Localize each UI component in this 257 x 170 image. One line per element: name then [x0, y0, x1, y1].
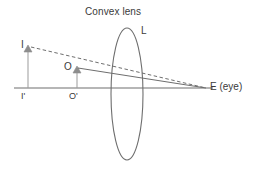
image-arrow-head: [24, 45, 32, 52]
object-point-label: O: [64, 62, 72, 72]
object-arrow-head: [73, 66, 81, 73]
virtual-ray-line: [31, 47, 206, 88]
image-foot-label: I': [21, 92, 25, 101]
eye-label: E (eye): [210, 82, 242, 92]
optics-diagram-convex-lens: Convex lens L I O I' O' E (eye): [0, 0, 257, 170]
convex-lens-outline: [111, 28, 143, 160]
image-point-label: I: [21, 40, 24, 50]
diagram-title: Convex lens: [85, 7, 141, 17]
object-foot-label: O': [69, 92, 78, 101]
lens-label: L: [141, 26, 147, 36]
image-arrow: [24, 45, 32, 88]
object-arrow: [73, 66, 81, 88]
